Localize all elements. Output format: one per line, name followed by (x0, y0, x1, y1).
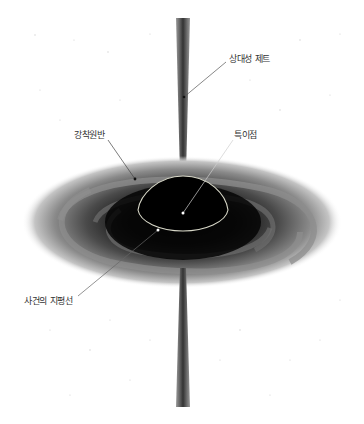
black-hole-diagram (0, 0, 364, 424)
event-horizon-marker-dot (157, 229, 160, 232)
label-relativistic-jet: 상대성 제트 (229, 52, 270, 65)
label-singularity: 특이점 (234, 128, 257, 141)
jet-leader-line (184, 62, 226, 97)
label-accretion-disk: 강착원반 (74, 128, 105, 141)
accretion-disk-marker-dot (134, 178, 137, 181)
relativistic-jet-bottom (176, 268, 190, 407)
label-event-horizon: 사건의 지평선 (24, 294, 73, 307)
singularity-marker-dot (182, 212, 185, 215)
jet-marker-dot (183, 96, 186, 99)
